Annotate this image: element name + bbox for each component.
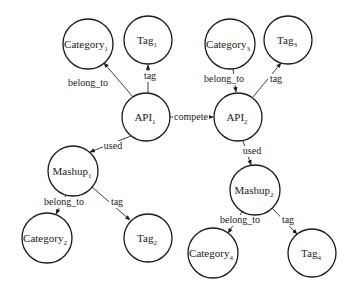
node-category1: Category1 <box>63 19 113 69</box>
knowledge-graph-diagram: belong_to tag compete used belong_to tag… <box>0 0 353 288</box>
node-mashup2: Mashup2 <box>230 165 280 215</box>
node-category2: Category2 <box>22 213 72 263</box>
node-tag3: Tag3 <box>264 16 312 64</box>
edge-label-mashup1-tag2: tag <box>109 196 125 208</box>
edge-label-api2-tag3: tag <box>268 73 284 85</box>
svg-text:used: used <box>243 145 261 156</box>
edge-label-mashup2-category4: belong_to <box>216 214 264 226</box>
svg-text:belong_to: belong_to <box>220 214 260 225</box>
edge-label-api1-tag1: tag <box>142 70 158 82</box>
svg-text:used: used <box>104 140 122 151</box>
node-tag4: Tag4 <box>288 229 336 277</box>
node-tag1: Tag1 <box>124 16 172 64</box>
node-api1: API1 <box>122 93 170 141</box>
node-mashup1: Mashup1 <box>48 146 98 196</box>
node-api2: API2 <box>214 93 262 141</box>
svg-text:tag: tag <box>282 214 294 225</box>
node-tag2: Tag2 <box>124 214 172 262</box>
svg-text:tag: tag <box>144 70 156 81</box>
edge-label-api1-category1: belong_to <box>64 77 112 89</box>
edge-label-mashup2-tag4: tag <box>280 214 296 226</box>
node-category4: Category4 <box>188 228 238 278</box>
svg-text:tag: tag <box>270 73 282 84</box>
edge-label-api1-mashup1: used <box>103 140 123 152</box>
svg-text:belong_to: belong_to <box>44 196 84 207</box>
svg-text:tag: tag <box>111 196 123 207</box>
svg-text:belong_to: belong_to <box>68 77 108 88</box>
svg-text:belong_to: belong_to <box>204 73 244 84</box>
svg-text:compete: compete <box>174 111 208 122</box>
edge-label-category3-api2: belong_to <box>200 73 248 85</box>
node-category3: Category3 <box>205 19 255 69</box>
edge-label-api2-mashup2: used <box>242 145 262 157</box>
edge-label-api1-api2: compete <box>173 111 209 123</box>
edge-label-mashup1-category2: belong_to <box>40 196 88 208</box>
